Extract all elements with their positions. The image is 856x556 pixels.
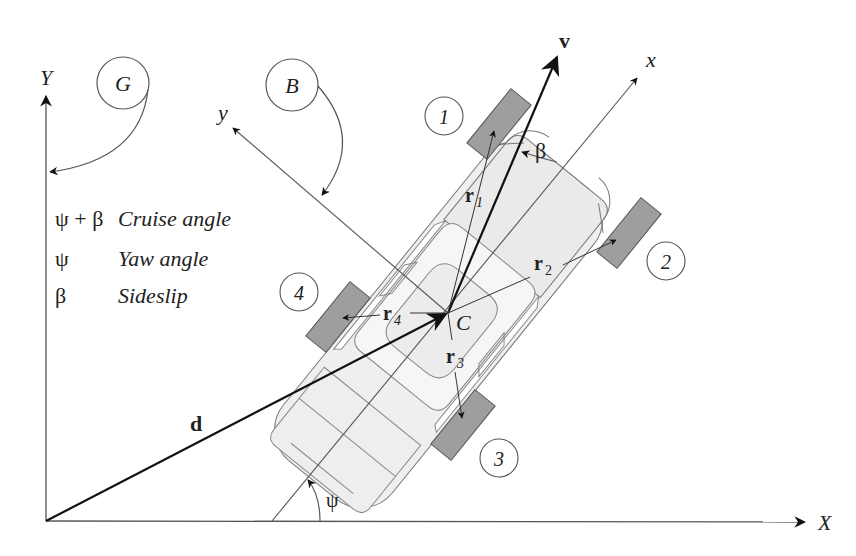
body-y-axis	[233, 128, 448, 313]
svg-text:r: r	[383, 302, 392, 324]
body-x-label: x	[645, 47, 656, 72]
car-body	[258, 114, 628, 525]
wheel-marker-3: 3	[480, 439, 518, 477]
svg-text:B: B	[285, 73, 298, 98]
svg-text:3: 3	[456, 356, 464, 371]
legend-symbol-cruise: ψ + β	[55, 206, 103, 231]
svg-text:4: 4	[294, 282, 304, 304]
velocity-vector-label: v	[559, 28, 570, 53]
angle-legend: ψ + β Cruise angle ψ Yaw angle β Sidesli…	[55, 206, 231, 308]
svg-text:1: 1	[439, 106, 449, 128]
global-y-label: Y	[40, 65, 55, 90]
legend-symbol-sideslip: β	[55, 283, 66, 308]
sideslip-angle-label: β	[535, 138, 546, 163]
global-x-axis	[46, 521, 805, 522]
center-of-mass-label: C	[456, 310, 471, 335]
svg-text:G: G	[115, 71, 131, 96]
body-frame-marker: B	[266, 59, 343, 195]
position-vector-label: d	[190, 411, 202, 436]
legend-desc-sideslip: Sideslip	[118, 283, 188, 308]
wheel-marker-4: 4	[280, 273, 318, 311]
wheel-marker-1: 1	[425, 97, 463, 135]
yaw-angle-arc	[308, 480, 320, 521]
svg-text:1: 1	[476, 195, 483, 210]
wheel-marker-2: 2	[647, 242, 685, 280]
svg-text:r: r	[446, 345, 455, 367]
body-y-label: y	[216, 100, 228, 125]
svg-text:2: 2	[661, 251, 671, 273]
legend-desc-cruise: Cruise angle	[118, 206, 231, 231]
svg-text:r: r	[534, 252, 543, 274]
global-x-label: X	[817, 510, 833, 535]
svg-text:r: r	[465, 184, 474, 206]
legend-desc-yaw: Yaw angle	[118, 246, 209, 271]
yaw-angle-label: ψ	[326, 489, 339, 512]
svg-text:4: 4	[394, 313, 401, 328]
global-frame-marker: G	[50, 57, 149, 172]
vehicle-kinematics-diagram: X Y G x y B d v β ψ r 1 r 2 r 3	[0, 0, 856, 556]
svg-text:2: 2	[545, 263, 552, 278]
svg-text:3: 3	[493, 448, 504, 470]
legend-symbol-yaw: ψ	[55, 246, 69, 271]
